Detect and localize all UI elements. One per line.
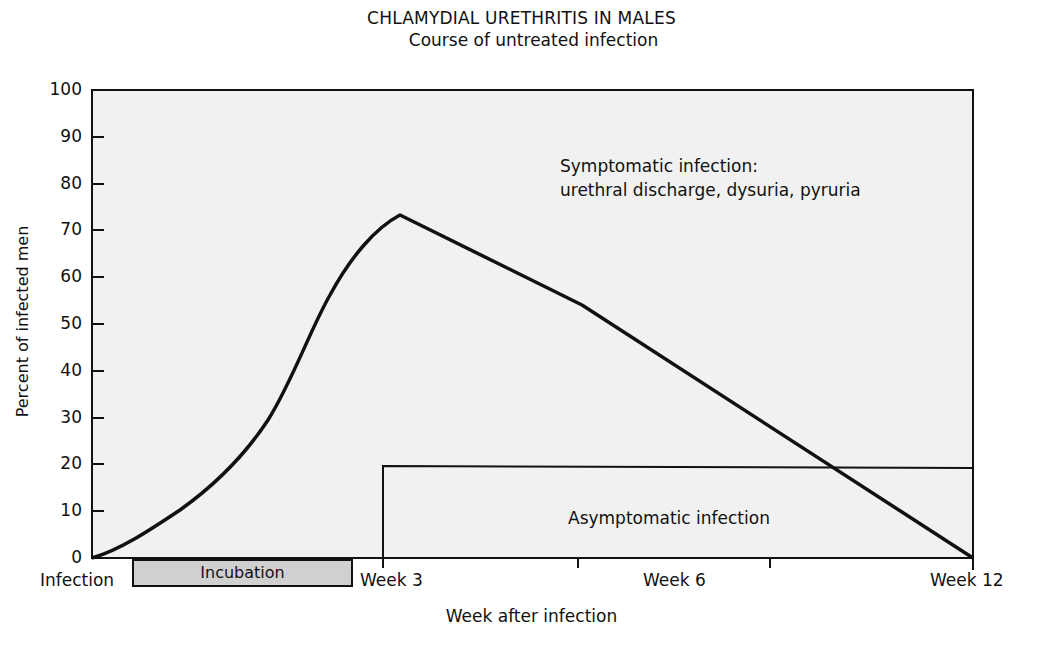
y-tick-0: 0 <box>42 547 82 567</box>
y-axis-label: Percent of infected men <box>13 222 32 422</box>
incubation-label: Incubation <box>133 561 352 585</box>
x-tick-week-3: Week 3 <box>360 570 423 590</box>
x-tick-week-12: Week 12 <box>930 570 1004 590</box>
y-tick-10: 10 <box>42 500 82 520</box>
y-tick-80: 80 <box>42 173 82 193</box>
x-axis-ticks <box>383 558 973 570</box>
symptomatic-annotation: Symptomatic infection: urethral discharg… <box>560 154 861 202</box>
y-tick-40: 40 <box>42 360 82 380</box>
asymptomatic-annotation: Asymptomatic infection <box>568 506 770 530</box>
x-tick-week-6: Week 6 <box>643 570 706 590</box>
symptomatic-line-2: urethral discharge, dysuria, pyruria <box>560 178 861 202</box>
y-tick-70: 70 <box>42 219 82 239</box>
x-axis-label: Week after infection <box>0 606 1043 626</box>
y-tick-90: 90 <box>42 126 82 146</box>
y-tick-30: 30 <box>42 407 82 427</box>
symptomatic-line-1: Symptomatic infection: <box>560 154 861 178</box>
y-tick-100: 100 <box>42 79 82 99</box>
y-tick-60: 60 <box>42 266 82 286</box>
y-tick-50: 50 <box>42 313 82 333</box>
x-tick-infection: Infection <box>40 570 114 590</box>
y-tick-20: 20 <box>42 453 82 473</box>
